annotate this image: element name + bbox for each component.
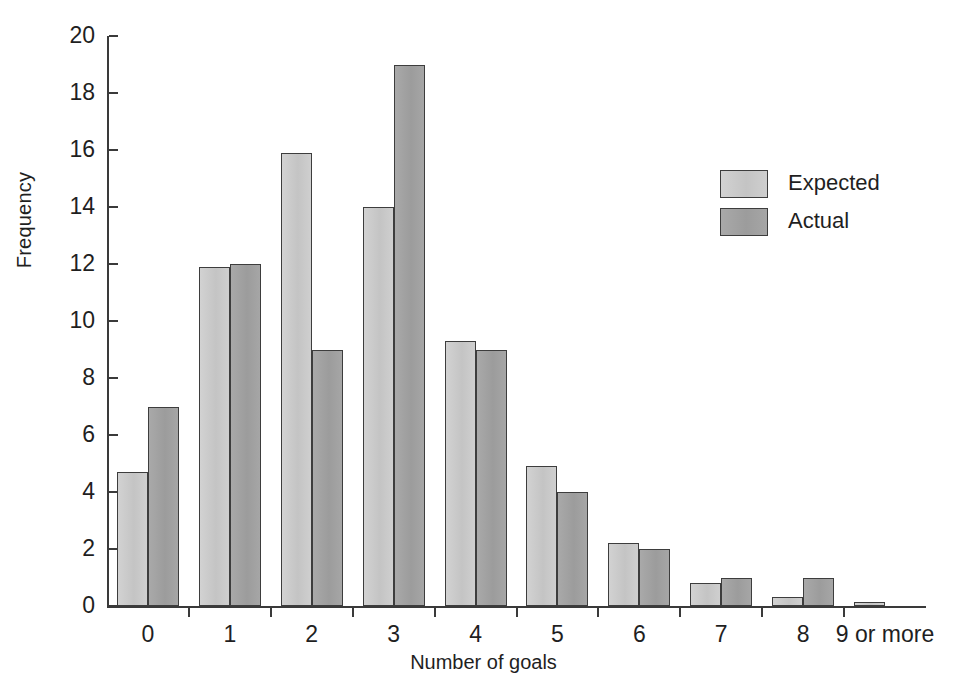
x-tick-mark bbox=[761, 608, 763, 617]
y-tick-mark bbox=[109, 35, 118, 37]
bar-expected-7 bbox=[690, 583, 721, 606]
y-tick-mark bbox=[109, 377, 118, 379]
bar-actual-8 bbox=[803, 578, 834, 607]
legend-swatch-actual-icon bbox=[720, 208, 768, 236]
y-tick-label: 6 bbox=[51, 423, 95, 446]
bar-actual-1 bbox=[230, 264, 261, 606]
x-tick-mark bbox=[352, 608, 354, 617]
bar-actual-2 bbox=[312, 350, 343, 607]
bar-expected-8 bbox=[772, 597, 803, 606]
bar-expected-1 bbox=[199, 267, 230, 606]
y-tick-mark bbox=[109, 320, 118, 322]
bar-actual-7 bbox=[721, 578, 752, 607]
bar-expected-4 bbox=[445, 341, 476, 606]
y-tick-mark bbox=[109, 92, 118, 94]
legend-swatch-expected-icon bbox=[720, 170, 768, 198]
y-tick-label: 14 bbox=[51, 195, 95, 218]
bar-actual-3 bbox=[394, 65, 425, 607]
bar-chart: Frequency 02468101214161820 0123456789 o… bbox=[0, 0, 967, 693]
y-tick-label: 8 bbox=[51, 366, 95, 389]
bar-expected-0 bbox=[117, 472, 148, 606]
y-tick-label: 2 bbox=[51, 537, 95, 560]
legend-label-actual: Actual bbox=[788, 206, 849, 236]
x-tick-mark bbox=[843, 608, 845, 617]
x-tick-mark bbox=[679, 608, 681, 617]
y-tick-label: 4 bbox=[51, 480, 95, 503]
y-tick-label: 18 bbox=[51, 81, 95, 104]
y-tick-label: 20 bbox=[51, 24, 95, 47]
bar-actual-0 bbox=[148, 407, 179, 607]
bar-actual-5 bbox=[557, 492, 588, 606]
x-tick-mark bbox=[516, 608, 518, 617]
y-axis-line bbox=[107, 36, 109, 608]
x-tick-mark bbox=[188, 608, 190, 617]
bar-expected-3 bbox=[363, 207, 394, 606]
y-tick-mark bbox=[109, 149, 118, 151]
legend-label-expected: Expected bbox=[788, 168, 880, 198]
x-axis-title: Number of goals bbox=[0, 651, 967, 674]
x-tick-mark bbox=[597, 608, 599, 617]
y-tick-label: 12 bbox=[51, 252, 95, 275]
y-tick-mark bbox=[109, 206, 118, 208]
y-axis-title: Frequency bbox=[13, 130, 36, 310]
bar-expected-2 bbox=[281, 153, 312, 606]
y-tick-mark bbox=[109, 263, 118, 265]
bar-expected-5 bbox=[526, 466, 557, 606]
y-tick-label: 0 bbox=[51, 594, 95, 617]
x-tick-mark bbox=[434, 608, 436, 617]
y-tick-label: 16 bbox=[51, 138, 95, 161]
bar-expected-6 bbox=[608, 543, 639, 606]
bar-actual-4 bbox=[476, 350, 507, 607]
x-tick-mark bbox=[270, 608, 272, 617]
y-tick-mark bbox=[109, 434, 118, 436]
x-tick-label: 9 or more bbox=[795, 622, 967, 646]
y-tick-label: 10 bbox=[51, 309, 95, 332]
bar-expected-9 bbox=[854, 602, 885, 606]
bar-actual-6 bbox=[639, 549, 670, 606]
